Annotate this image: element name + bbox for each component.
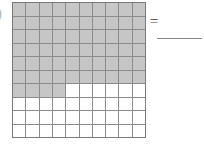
grid-cell[interactable] [53,44,66,58]
grid-cell[interactable] [66,71,79,85]
grid-cell[interactable] [13,17,26,31]
grid-cell[interactable] [106,57,119,71]
grid-cell[interactable] [80,125,93,139]
grid-cell[interactable] [93,57,106,71]
grid-cell[interactable] [13,71,26,85]
grid-cell[interactable] [53,71,66,85]
grid-cell[interactable] [66,3,79,17]
grid-cell[interactable] [80,17,93,31]
grid-cell[interactable] [119,57,132,71]
grid-cell[interactable] [53,125,66,139]
grid-cell[interactable] [133,84,146,98]
grid-cell[interactable] [53,98,66,112]
grid-cell[interactable] [80,3,93,17]
grid-cell[interactable] [80,98,93,112]
grid-cell[interactable] [119,111,132,125]
grid-cell[interactable] [40,125,53,139]
grid-cell[interactable] [40,3,53,17]
grid-cell[interactable] [106,84,119,98]
grid-cell[interactable] [133,57,146,71]
grid-cell[interactable] [66,30,79,44]
grid-cell[interactable] [26,57,39,71]
grid-cell[interactable] [93,17,106,31]
grid-cell[interactable] [26,17,39,31]
grid-cell[interactable] [93,111,106,125]
grid-cell[interactable] [119,30,132,44]
grid-cell[interactable] [13,57,26,71]
grid-cell[interactable] [93,84,106,98]
grid-cell[interactable] [26,3,39,17]
grid-cell[interactable] [119,71,132,85]
grid-cell[interactable] [66,125,79,139]
grid-cell[interactable] [40,57,53,71]
grid-cell[interactable] [80,111,93,125]
grid-cell[interactable] [106,111,119,125]
grid-cell[interactable] [13,30,26,44]
grid-cell[interactable] [119,125,132,139]
grid-cell[interactable] [133,98,146,112]
grid-cell[interactable] [53,17,66,31]
grid-cell[interactable] [13,84,26,98]
grid-cell[interactable] [106,3,119,17]
grid-cell[interactable] [119,44,132,58]
grid-cell[interactable] [133,111,146,125]
grid-cell[interactable] [93,71,106,85]
grid-cell[interactable] [106,71,119,85]
grid-cell[interactable] [80,44,93,58]
grid-cell[interactable] [106,30,119,44]
grid-cell[interactable] [133,3,146,17]
grid-cell[interactable] [40,84,53,98]
grid-cell[interactable] [26,44,39,58]
grid-cell[interactable] [119,98,132,112]
grid-cell[interactable] [40,111,53,125]
grid-cell[interactable] [13,125,26,139]
grid-cell[interactable] [13,111,26,125]
grid-cell[interactable] [106,17,119,31]
grid-cell[interactable] [53,3,66,17]
grid-cell[interactable] [26,98,39,112]
grid-cell[interactable] [66,57,79,71]
grid-cell[interactable] [133,71,146,85]
grid-cell[interactable] [93,30,106,44]
grid-cell[interactable] [106,98,119,112]
grid-cell[interactable] [93,125,106,139]
grid-cell[interactable] [119,3,132,17]
grid-cell[interactable] [93,44,106,58]
grid-cell[interactable] [93,98,106,112]
grid-cell[interactable] [80,71,93,85]
grid-cell[interactable] [80,57,93,71]
grid-cell[interactable] [26,111,39,125]
grid-cell[interactable] [40,71,53,85]
grid-cell[interactable] [66,111,79,125]
answer-blank-line[interactable] [157,38,202,39]
grid-cell[interactable] [133,44,146,58]
grid-cell[interactable] [106,44,119,58]
grid-cell[interactable] [106,125,119,139]
grid-cell[interactable] [53,57,66,71]
grid-cell[interactable] [93,3,106,17]
grid-cell[interactable] [26,71,39,85]
grid-cell[interactable] [13,3,26,17]
grid-cell[interactable] [133,30,146,44]
grid-cell[interactable] [80,84,93,98]
grid-cell[interactable] [53,84,66,98]
grid-cell[interactable] [40,30,53,44]
grid-cell[interactable] [80,30,93,44]
grid-cell[interactable] [133,125,146,139]
grid-cell[interactable] [13,44,26,58]
grid-cell[interactable] [53,111,66,125]
grid-cell[interactable] [40,98,53,112]
grid-cell[interactable] [40,17,53,31]
grid-cell[interactable] [66,44,79,58]
grid-cell[interactable] [26,84,39,98]
grid-cell[interactable] [66,84,79,98]
grid-cell[interactable] [133,17,146,31]
grid-cell[interactable] [26,30,39,44]
grid-cell[interactable] [119,17,132,31]
grid-cell[interactable] [53,30,66,44]
grid-cell[interactable] [119,84,132,98]
grid-cell[interactable] [40,44,53,58]
grid-cell[interactable] [26,125,39,139]
grid-cell[interactable] [66,98,79,112]
grid-cell[interactable] [13,98,26,112]
